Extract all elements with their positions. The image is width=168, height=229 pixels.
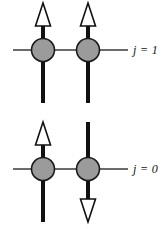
- arrow-up-icon: [36, 122, 51, 145]
- arrow-up-icon: [81, 3, 96, 26]
- arrow-up-icon: [36, 3, 51, 26]
- row-label-j0: j = 0: [133, 163, 158, 175]
- node-j1-left: [32, 39, 55, 62]
- spin-lattice-figure: j = 1 j = 0: [0, 0, 168, 229]
- row-j0: [13, 122, 128, 222]
- node-j0-left: [32, 158, 55, 181]
- row-j1: [13, 3, 128, 103]
- diagram-canvas: [0, 0, 168, 229]
- row-label-j1: j = 1: [133, 44, 158, 56]
- node-j0-right: [77, 158, 100, 181]
- arrow-down-icon: [81, 199, 96, 222]
- node-j1-right: [77, 39, 100, 62]
